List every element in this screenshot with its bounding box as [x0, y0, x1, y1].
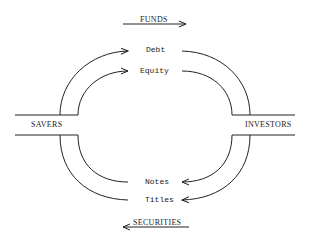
securities-label: SECURITIES — [133, 218, 181, 228]
notes-flow-arc — [182, 135, 232, 182]
notes-to-savers-arc — [78, 135, 128, 182]
equity-to-investors-arc — [182, 71, 232, 115]
funds-label: FUNDS — [140, 15, 168, 25]
debt-label: Debt — [146, 45, 165, 55]
debt-to-investors-arc — [182, 51, 250, 115]
titles-to-savers-arc — [60, 135, 128, 200]
equity-flow-arc — [78, 71, 128, 115]
equity-label: Equity — [140, 66, 169, 76]
investors-label: INVESTORS — [245, 120, 292, 130]
titles-flow-arc — [182, 135, 250, 200]
savers-label: SAVERS — [31, 120, 62, 130]
notes-label: Notes — [145, 177, 169, 187]
titles-label: Titles — [145, 195, 174, 205]
